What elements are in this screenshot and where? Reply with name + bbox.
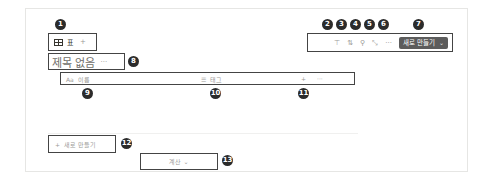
callout-7: 7	[413, 19, 424, 30]
multi-select-icon: ☰	[201, 76, 206, 83]
callout-12: 12	[121, 138, 132, 149]
new-row-label: 새로 만들기	[64, 140, 96, 149]
calculate-label: 계산	[169, 157, 181, 166]
callout-6: 6	[378, 19, 389, 30]
search-icon[interactable]: ⚲	[360, 39, 365, 47]
title-more-icon[interactable]: ···	[101, 58, 108, 66]
column-name-label: 이름	[78, 76, 90, 83]
callout-4: 4	[350, 19, 361, 30]
expand-icon[interactable]: ⤡	[372, 39, 378, 47]
column-tags-label: 태그	[210, 76, 222, 83]
callout-11: 11	[298, 88, 309, 99]
page-title[interactable]: 제목 없음	[52, 54, 96, 70]
callout-3: 3	[336, 19, 347, 30]
new-row-button[interactable]: + 새로 만들기	[48, 135, 116, 153]
tab-table[interactable]: 표	[67, 37, 73, 47]
plus-icon: +	[55, 141, 60, 148]
filter-icon[interactable]: ⊤	[334, 39, 340, 47]
table-icon[interactable]	[54, 39, 63, 46]
database-title[interactable]: 제목 없음 ···	[48, 53, 125, 70]
text-property-icon: Aa	[66, 76, 74, 83]
callout-13: 13	[222, 155, 233, 166]
callout-1: 1	[55, 19, 66, 30]
database-toolbar: ⊤ ⇅ ⚲ ⤡ ··· 새로 만들기 ⌄	[307, 33, 453, 52]
callout-5: 5	[364, 19, 375, 30]
chevron-down-icon: ⌄	[183, 158, 188, 165]
add-property-button[interactable]: +	[301, 75, 306, 82]
row-divider	[48, 133, 358, 134]
add-view-button[interactable]: +	[80, 38, 86, 46]
column-header-tags[interactable]: ☰ 태그	[201, 75, 222, 84]
new-button-label: 새로 만들기	[403, 37, 435, 49]
new-button[interactable]: 새로 만들기 ⌄	[399, 37, 448, 49]
callout-2: 2	[322, 19, 333, 30]
more-icon[interactable]: ···	[385, 39, 392, 47]
calculate-button[interactable]: 계산 ⌄	[140, 153, 218, 170]
column-more-icon[interactable]: ···	[317, 75, 323, 82]
column-header-name[interactable]: Aa 이름	[66, 75, 90, 84]
chevron-down-icon[interactable]: ⌄	[439, 37, 444, 49]
callout-9: 9	[82, 88, 93, 99]
sort-icon[interactable]: ⇅	[347, 39, 353, 47]
callout-10: 10	[210, 88, 221, 99]
table-header-row: Aa 이름 ☰ 태그 + ···	[60, 72, 355, 85]
view-tabs: 표 +	[48, 33, 97, 51]
callout-8: 8	[128, 56, 139, 67]
